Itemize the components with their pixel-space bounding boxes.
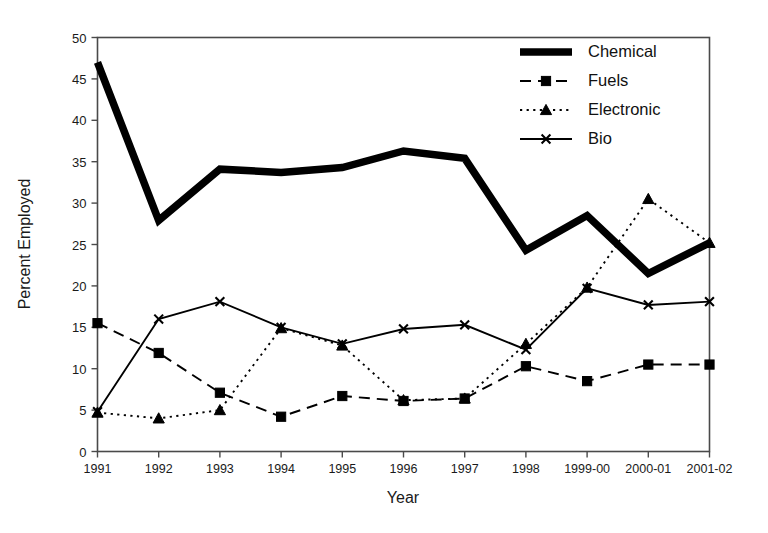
y-tick-label: 15 [72,320,86,335]
x-tick-label: 2000-01 [625,462,671,476]
legend-label-bio: Bio [588,129,612,147]
data-point-marker [215,388,224,397]
x-tick-label: 1995 [328,462,356,476]
x-tick-label: 1993 [206,462,234,476]
legend-label-fuels: Fuels [588,71,628,89]
chart-background [0,0,768,533]
chart-container: 05101520253035404550 1991199219931994199… [0,0,768,533]
data-point-marker [93,319,102,328]
line-chart-svg: 05101520253035404550 1991199219931994199… [0,0,768,533]
legend-label-electronic: Electronic [588,100,660,118]
y-tick-label: 50 [72,31,86,46]
y-tick-label: 0 [79,445,86,460]
y-tick-label: 10 [72,362,86,377]
x-tick-label: 1997 [451,462,479,476]
data-point-marker [154,348,163,357]
data-point-marker [705,360,714,369]
x-tick-label: 2001-02 [687,462,733,476]
data-point-marker [338,391,347,400]
legend-label-chemical: Chemical [588,42,657,60]
y-tick-label: 45 [72,72,86,87]
y-tick-label: 35 [72,155,86,170]
data-point-marker [541,76,550,85]
x-axis-title: Year [387,489,420,506]
x-tick-label: 1999-00 [564,462,610,476]
y-tick-label: 5 [79,403,86,418]
x-tick-label: 1996 [390,462,418,476]
x-tick-label: 1991 [84,462,112,476]
y-tick-label: 40 [72,113,86,128]
data-point-marker [521,362,530,371]
y-axis-title: Percent Employed [16,179,33,310]
y-tick-label: 20 [72,279,86,294]
x-tick-label: 1992 [145,462,173,476]
data-point-marker [277,412,286,421]
data-point-marker [583,377,592,386]
y-tick-label: 30 [72,196,86,211]
data-point-marker [644,360,653,369]
x-tick-label: 1994 [267,462,295,476]
x-tick-label: 1998 [512,462,540,476]
y-tick-label: 25 [72,238,86,253]
